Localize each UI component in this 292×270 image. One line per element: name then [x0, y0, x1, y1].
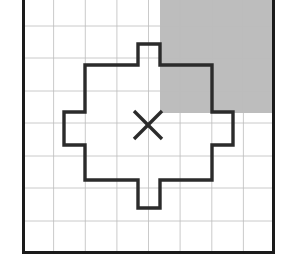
shaded-quadrant — [160, 0, 275, 113]
figure-root — [0, 0, 292, 270]
grid-diagram-svg — [0, 0, 292, 270]
